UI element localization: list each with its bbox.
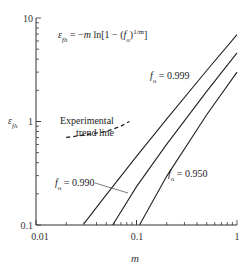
equation-label: εfh = −m ln[1 − (fo)1/m] xyxy=(58,28,147,44)
y-tick-label-0.1: 0.1 xyxy=(21,220,34,231)
trend-line-label-2: trend line xyxy=(76,127,115,138)
label-f0-0950: fo = 0.950 xyxy=(168,168,207,183)
x-tick-label-0.1: 0.1 xyxy=(131,231,144,242)
trend-line-label-1: Experimental xyxy=(60,115,114,126)
y-tick-label-10: 10 xyxy=(23,13,33,24)
x-ticks xyxy=(36,220,237,225)
y-ticks xyxy=(36,18,41,225)
label-f0-0999: fo = 0.999 xyxy=(150,70,189,85)
x-tick-label-0.01: 0.01 xyxy=(31,231,49,242)
x-tick-label-1: 1 xyxy=(235,231,240,242)
x-axis-label: m xyxy=(131,252,139,264)
label-f0-0990: fo = 0.990 xyxy=(55,177,94,192)
series-0950 xyxy=(140,72,238,225)
leader-line-0990 xyxy=(95,183,128,193)
y-axis-label: εfh xyxy=(8,115,18,130)
y-tick-label-1: 1 xyxy=(28,116,33,127)
chart: 10 1 0.1 0.01 0.1 1 m εfh εfh = −m ln[1 … xyxy=(0,0,252,273)
